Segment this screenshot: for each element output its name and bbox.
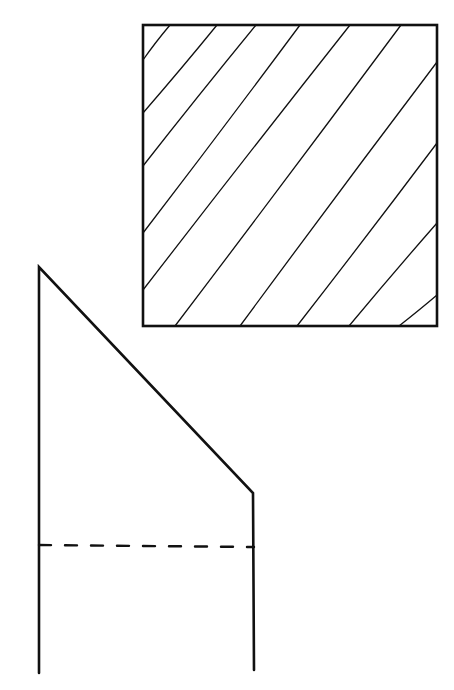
hatch-line (143, 25, 217, 113)
hatch-line (143, 25, 170, 60)
hatched-square-section-view (143, 25, 437, 326)
hidden-line-dashed (39, 545, 254, 547)
drawing-canvas (0, 0, 454, 690)
hatch-line (399, 295, 437, 326)
hatch-line (143, 25, 300, 233)
hatch-line (175, 25, 401, 326)
technical-drawing (0, 0, 454, 690)
chamfered-side-view (39, 267, 254, 673)
hatch-line (240, 62, 437, 326)
hatch-lines (143, 25, 437, 326)
hatch-line (143, 25, 350, 290)
profile-outline (39, 267, 254, 673)
hatch-line (297, 143, 437, 326)
hatch-line (349, 223, 437, 326)
